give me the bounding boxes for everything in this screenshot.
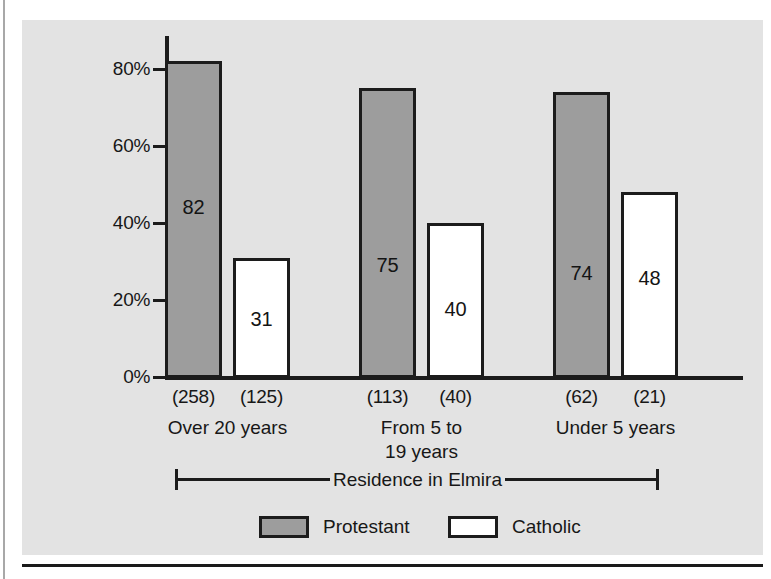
bar-catholic-from-5-to-19-years[interactable]: 40	[427, 223, 484, 378]
x-axis-label: Residence in Elmira	[330, 467, 505, 492]
x-group-label-line-1: From 5 to	[354, 416, 489, 440]
bar-protestant-over-20-years[interactable]: 82	[165, 61, 222, 378]
bar-value-label: 75	[362, 254, 413, 277]
y-tick-label-60: 60%	[80, 135, 150, 157]
legend-item-protestant[interactable]: Protestant	[259, 516, 410, 538]
x-group-label-line-1: Under 5 years	[548, 416, 683, 440]
x-group-label-line-1: Over 20 years	[160, 416, 295, 440]
bar-catholic-over-20-years[interactable]: 31	[233, 258, 290, 378]
bar-value-label: 31	[236, 308, 287, 331]
y-tick-label-40: 40%	[80, 212, 150, 234]
legend-item-catholic[interactable]: Catholic	[448, 516, 581, 538]
x-group-label-line-2: 19 years	[354, 440, 489, 464]
bar-value-label: 82	[168, 196, 219, 219]
bracket-right-cap	[656, 469, 659, 490]
bar-protestant-under-5-years[interactable]: 74	[553, 92, 610, 378]
bar-catholic-under-5-years[interactable]: 48	[621, 192, 678, 378]
legend-swatch-protestant	[259, 516, 309, 538]
y-tick-label-80: 80%	[80, 58, 150, 80]
legend: Protestant Catholic	[22, 516, 763, 556]
x-count-label-catholic-from-5-to-19-years: (40)	[427, 386, 484, 408]
legend-swatch-catholic	[448, 516, 498, 538]
x-count-label-protestant-from-5-to-19-years: (113)	[359, 386, 416, 408]
bar-value-label: 40	[430, 298, 481, 321]
legend-label-catholic: Catholic	[512, 516, 581, 538]
bars-container: 82 31 75 40 74 48	[165, 36, 743, 378]
figure-panel: 0% 20% 40% 60% 80% 82 31 75	[22, 20, 763, 555]
x-group-label-under-5-years: Under 5 years	[548, 416, 683, 440]
bar-value-label: 74	[556, 262, 607, 285]
y-tick-label-20: 20%	[80, 289, 150, 311]
plot-area: 0% 20% 40% 60% 80% 82 31 75	[22, 20, 763, 555]
bar-value-label: 48	[624, 267, 675, 290]
x-group-label-over-20-years: Over 20 years	[160, 416, 295, 440]
x-count-label-catholic-under-5-years: (21)	[621, 386, 678, 408]
left-margin-rule	[3, 0, 5, 579]
x-count-label-protestant-under-5-years: (62)	[553, 386, 610, 408]
bottom-horizontal-rule	[22, 564, 763, 567]
y-tick-label-0: 0%	[80, 366, 150, 388]
x-group-label-from-5-to-19-years: From 5 to 19 years	[354, 416, 489, 464]
bar-protestant-from-5-to-19-years[interactable]: 75	[359, 88, 416, 378]
x-axis-bracket: Residence in Elmira	[175, 467, 659, 493]
x-count-label-catholic-over-20-years: (125)	[233, 386, 290, 408]
x-count-label-protestant-over-20-years: (258)	[165, 386, 222, 408]
legend-label-protestant: Protestant	[323, 516, 410, 538]
